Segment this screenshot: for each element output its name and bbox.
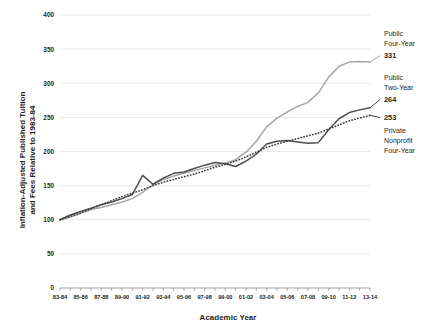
series-end-value: 253 bbox=[384, 113, 396, 122]
x-axis-title: Academic Year bbox=[200, 313, 257, 322]
series-label: Public bbox=[384, 30, 404, 37]
data-series-group bbox=[60, 61, 370, 219]
x-tick-label: 01-02 bbox=[239, 294, 253, 300]
x-tick-label: 87-88 bbox=[94, 294, 108, 300]
gridlines-group bbox=[60, 15, 370, 288]
series-leader-line bbox=[370, 56, 380, 63]
y-tick-label: 300 bbox=[43, 80, 54, 87]
series-label: Public bbox=[384, 74, 404, 81]
y-tick-labels-group: 050100150200250300350400 bbox=[43, 11, 54, 291]
y-tick-label: 350 bbox=[43, 46, 54, 53]
series-label: Private bbox=[384, 127, 406, 134]
series-label: Two-Year bbox=[384, 84, 414, 91]
x-tick-label: 83-84 bbox=[53, 294, 68, 300]
series-leader-line bbox=[370, 115, 380, 117]
x-tick-label: 07-08 bbox=[301, 294, 315, 300]
x-tick-label: 03-04 bbox=[260, 294, 275, 300]
y-tick-label: 0 bbox=[50, 284, 54, 291]
x-tick-label: 89-90 bbox=[115, 294, 129, 300]
x-tick-label: 95-96 bbox=[177, 294, 191, 300]
x-axis-group bbox=[60, 288, 370, 291]
y-tick-label: 250 bbox=[43, 114, 54, 121]
series-label: Four-Year bbox=[384, 40, 416, 47]
x-tick-label: 93-94 bbox=[156, 294, 171, 300]
series-annotations-group: PublicFour-Year331PublicTwo-Year264Priva… bbox=[370, 30, 416, 154]
series-line bbox=[60, 108, 370, 220]
x-tick-label: 11-12 bbox=[342, 294, 356, 300]
series-label: Four-Year bbox=[384, 147, 416, 154]
y-tick-label: 100 bbox=[43, 216, 54, 223]
y-axis-title-line2: and Fees Relative to 1983-84 bbox=[28, 105, 37, 214]
series-leader-line bbox=[370, 100, 380, 108]
series-line bbox=[60, 61, 370, 219]
y-axis-title-line1: Inflation-Adjusted Published Tuition bbox=[18, 92, 27, 229]
x-tick-label: 85-86 bbox=[74, 294, 88, 300]
y-tick-label: 200 bbox=[43, 148, 54, 155]
x-tick-label: 99-00 bbox=[218, 294, 232, 300]
x-tick-label: 05-06 bbox=[280, 294, 294, 300]
x-tick-label: 09-10 bbox=[322, 294, 336, 300]
chart-canvas: 050100150200250300350400 83-8485-8687-88… bbox=[0, 0, 432, 331]
x-tick-label: 91-92 bbox=[136, 294, 150, 300]
y-tick-label: 150 bbox=[43, 182, 54, 189]
series-label: Nonprofit bbox=[384, 137, 412, 145]
series-end-value: 331 bbox=[384, 51, 396, 60]
x-tick-label: 13-14 bbox=[363, 294, 378, 300]
tuition-trend-chart: 050100150200250300350400 83-8485-8687-88… bbox=[0, 0, 432, 331]
x-tick-label: 97-98 bbox=[198, 294, 212, 300]
y-tick-label: 400 bbox=[43, 11, 54, 18]
y-tick-label: 50 bbox=[47, 250, 55, 257]
series-end-value: 264 bbox=[384, 95, 397, 104]
x-tick-labels-group: 83-8485-8687-8889-9091-9293-9495-9697-98… bbox=[53, 294, 378, 300]
